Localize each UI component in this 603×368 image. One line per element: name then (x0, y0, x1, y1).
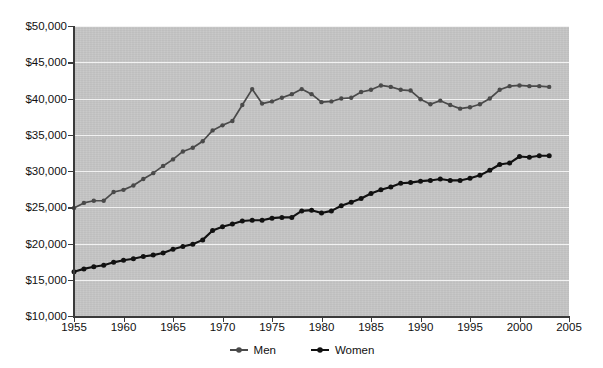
data-point (299, 208, 304, 213)
y-axis-tick-label: $50,000 (6, 20, 74, 32)
data-point (230, 119, 234, 123)
data-point (547, 85, 551, 89)
data-point (131, 183, 135, 187)
x-axis-tick-label: 2005 (556, 321, 582, 333)
x-axis-tick-label: 2000 (507, 321, 533, 333)
data-point (369, 191, 374, 196)
data-point (537, 84, 541, 88)
x-axis-tick-mark (223, 316, 224, 322)
data-point (319, 211, 324, 216)
data-point (141, 254, 146, 259)
x-axis-tick-mark (173, 316, 174, 322)
data-point (517, 83, 521, 87)
x-axis-tick-mark (371, 316, 372, 322)
data-point (329, 99, 333, 103)
y-axis-tick-label: $15,000 (6, 274, 74, 286)
legend-item-women[interactable]: Women (310, 344, 374, 356)
x-axis-tick-mark (421, 316, 422, 322)
data-point (507, 161, 512, 166)
legend-label: Men (254, 344, 276, 356)
data-point (102, 199, 106, 203)
data-point (378, 187, 383, 192)
data-point (111, 260, 116, 265)
data-point (497, 162, 502, 167)
data-point (111, 190, 115, 194)
data-point (270, 99, 274, 103)
data-point (448, 103, 452, 107)
data-point (81, 266, 86, 271)
x-axis-tick-mark (470, 316, 471, 322)
data-point (92, 199, 96, 203)
data-point (181, 149, 185, 153)
data-point (408, 180, 413, 185)
y-axis-tick-label: $35,000 (6, 129, 74, 141)
legend-marker-icon (229, 345, 249, 355)
data-point (547, 153, 552, 158)
x-axis-tick-label: 1975 (259, 321, 285, 333)
x-axis-tick-label: 1980 (309, 321, 335, 333)
y-axis-tick-label: $25,000 (6, 201, 74, 213)
y-axis-tick-label: $30,000 (6, 165, 74, 177)
y-axis-tick-mark (68, 26, 74, 27)
data-point (507, 84, 511, 88)
x-axis-tick-label: 1970 (210, 321, 236, 333)
data-point (487, 168, 492, 173)
legend-item-men[interactable]: Men (229, 344, 276, 356)
x-axis-tick-label: 1995 (457, 321, 483, 333)
x-axis-tick-label: 1960 (111, 321, 137, 333)
data-point (121, 258, 126, 263)
y-axis-tick-mark (68, 280, 74, 281)
data-point (280, 96, 284, 100)
data-point (171, 157, 175, 161)
x-axis-tick-label: 1985 (358, 321, 384, 333)
data-point (191, 146, 195, 150)
y-axis-tick-mark (68, 62, 74, 63)
data-point (309, 208, 314, 213)
series-men (72, 83, 552, 210)
data-point (201, 139, 205, 143)
data-point (527, 84, 531, 88)
data-point (458, 106, 462, 110)
y-axis-labels: $10,000$15,000$20,000$25,000$30,000$35,0… (0, 0, 74, 368)
y-axis-tick-mark (68, 171, 74, 172)
data-point (329, 208, 334, 213)
data-point (151, 253, 156, 258)
data-point (399, 88, 403, 92)
data-point (537, 153, 542, 158)
data-point (250, 218, 255, 223)
line-chart: $10,000$15,000$20,000$25,000$30,000$35,0… (0, 0, 603, 368)
series-women (72, 153, 552, 274)
data-point (180, 244, 185, 249)
data-point (448, 178, 453, 183)
data-point (379, 83, 383, 87)
chart-legend: MenWomen (0, 344, 603, 356)
data-point (517, 154, 522, 159)
data-point (200, 237, 205, 242)
x-axis-tick-label: 1965 (160, 321, 186, 333)
data-point (190, 242, 195, 247)
data-point (408, 88, 412, 92)
data-point (339, 203, 344, 208)
data-point (389, 85, 393, 89)
data-point (171, 247, 176, 252)
data-point (161, 250, 166, 255)
series-line (74, 156, 549, 272)
y-axis-tick-label: $20,000 (6, 238, 74, 250)
data-point (82, 201, 86, 205)
y-axis-tick-mark (68, 135, 74, 136)
data-point (141, 177, 145, 181)
series-layer (0, 0, 603, 368)
data-point (418, 179, 423, 184)
data-point (468, 105, 472, 109)
y-axis-tick-label: $40,000 (6, 93, 74, 105)
data-point (210, 228, 215, 233)
data-point (527, 155, 532, 160)
data-point (349, 200, 354, 205)
data-point (319, 100, 323, 104)
data-point (230, 221, 235, 226)
data-point (161, 164, 165, 168)
data-point (498, 88, 502, 92)
x-axis-tick-mark (322, 316, 323, 322)
data-point (438, 98, 442, 102)
x-axis-tick-label: 1955 (61, 321, 87, 333)
